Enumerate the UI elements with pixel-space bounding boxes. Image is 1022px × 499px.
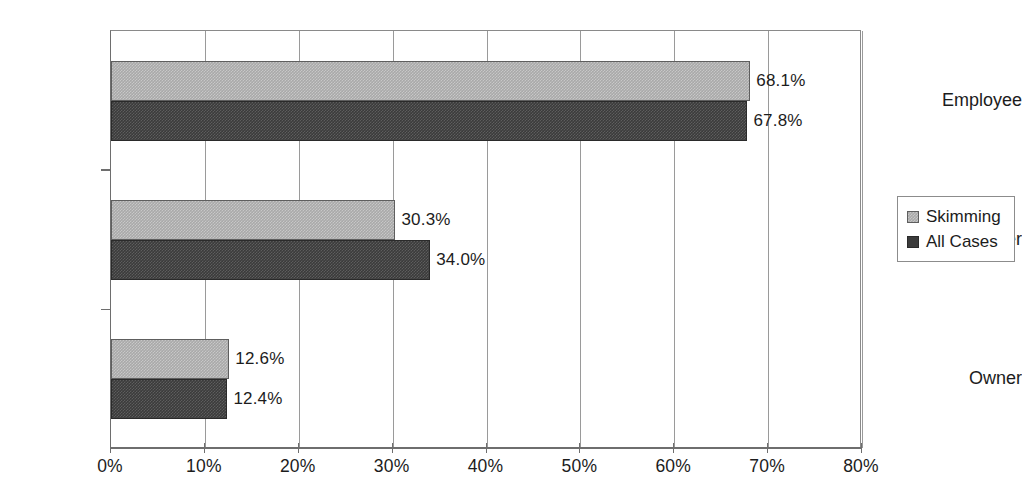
x-axis-tick (392, 443, 393, 453)
bar-owner-all-cases (111, 379, 227, 419)
legend-label-all-cases: All Cases (926, 233, 998, 250)
x-axis-tick-label: 0% (97, 458, 123, 476)
legend-swatch-skimming (907, 211, 919, 223)
bar-chart: 0%10%20%30%40%50%60%70%80% EmployeeManag… (0, 0, 1022, 499)
x-axis-tick (110, 443, 111, 453)
x-axis-tick (298, 443, 299, 453)
value-label-employee-skimming: 68.1% (756, 72, 805, 89)
bar-manager-all-cases (111, 240, 430, 280)
legend-item-all-cases: All Cases (907, 229, 1014, 254)
x-axis-tick-label: 70% (749, 458, 785, 476)
x-axis-tick (767, 443, 768, 453)
x-axis-tick (861, 443, 862, 453)
bar-manager-skimming (111, 200, 395, 240)
value-label-owner-skimming: 12.6% (235, 350, 284, 367)
legend-swatch-all-cases (907, 236, 919, 248)
value-label-manager-skimming: 30.3% (401, 211, 450, 228)
value-label-manager-all-cases: 34.0% (436, 251, 485, 268)
x-axis-tick-label: 50% (562, 458, 598, 476)
x-axis-tick-label: 40% (468, 458, 504, 476)
x-axis-tick-label: 30% (374, 458, 410, 476)
category-label-employee: Employee (926, 91, 1022, 109)
chart-legend: Skimming All Cases (897, 196, 1015, 262)
bar-employee-all-cases (111, 101, 747, 141)
gridline (768, 31, 769, 448)
plot-area (110, 30, 861, 448)
x-axis-tick-label: 80% (843, 458, 879, 476)
y-axis-tick (101, 169, 110, 171)
value-label-employee-all-cases: 67.8% (753, 112, 802, 129)
legend-item-skimming: Skimming (907, 204, 1014, 229)
x-axis-tick-label: 10% (186, 458, 222, 476)
bar-employee-skimming (111, 61, 750, 101)
legend-label-skimming: Skimming (926, 208, 1001, 225)
gridline (862, 31, 863, 448)
x-axis-tick (486, 443, 487, 453)
x-axis-tick-label: 20% (280, 458, 316, 476)
y-axis-tick (101, 309, 110, 311)
bar-owner-skimming (111, 339, 229, 379)
x-axis-tick-label: 60% (655, 458, 691, 476)
category-label-owner: Owner (926, 369, 1022, 387)
x-axis-tick (579, 443, 580, 453)
value-label-owner-all-cases: 12.4% (233, 390, 282, 407)
x-axis-tick (673, 443, 674, 453)
x-axis-tick (204, 443, 205, 453)
